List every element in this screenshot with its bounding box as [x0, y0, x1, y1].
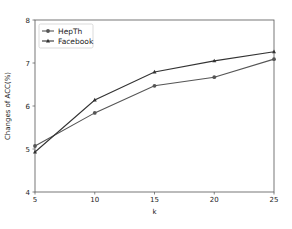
- legend-marker-icon: [46, 29, 50, 33]
- data-point-marker: [272, 50, 276, 54]
- data-point-marker: [212, 75, 216, 79]
- data-point-marker: [93, 111, 97, 115]
- x-axis-label: k: [152, 208, 157, 216]
- y-tick-label: 7: [26, 60, 30, 68]
- x-tick-label: 20: [210, 196, 219, 204]
- data-point-marker: [153, 84, 157, 88]
- x-tick-label: 5: [33, 196, 37, 204]
- line-chart: 510152025 45678 k Changes of ACC(%) HepT…: [0, 0, 292, 229]
- x-tick-label: 25: [270, 196, 279, 204]
- y-tick-label: 6: [26, 103, 31, 111]
- series-layer: [33, 50, 276, 154]
- x-tick-label: 15: [150, 196, 159, 204]
- y-axis-ticks: 45678: [26, 17, 35, 197]
- legend-label: Facebook: [58, 37, 94, 46]
- y-axis-label: Changes of ACC(%): [4, 72, 12, 140]
- data-point-marker: [33, 144, 37, 148]
- series-facebook: [33, 50, 276, 154]
- y-tick-label: 8: [26, 17, 30, 25]
- x-axis-ticks: 510152025: [33, 192, 279, 204]
- data-point-marker: [272, 57, 276, 61]
- x-tick-label: 10: [90, 196, 99, 204]
- y-tick-label: 4: [26, 189, 31, 197]
- legend: HepThFacebook: [39, 24, 94, 48]
- series-line: [35, 52, 274, 152]
- legend-label: HepTh: [58, 27, 83, 36]
- y-tick-label: 5: [26, 146, 30, 154]
